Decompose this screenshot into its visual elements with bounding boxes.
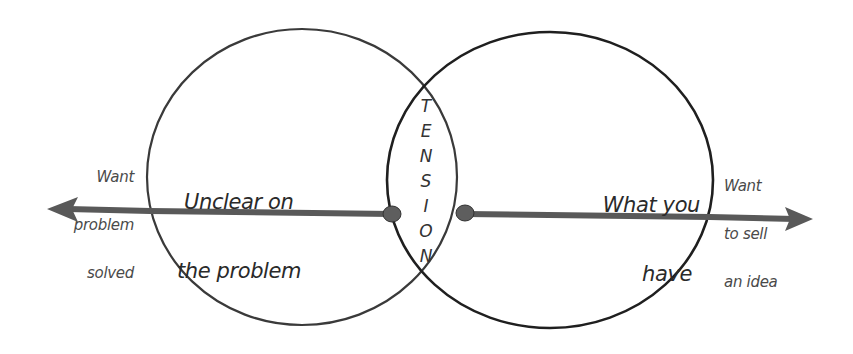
tension-letter: N — [415, 144, 437, 169]
tension-letter: I — [415, 194, 437, 219]
left-circle-label: Unclear on the problem — [180, 145, 301, 306]
right-arrow-label-line3: an idea — [724, 274, 777, 290]
left-arrow-label-line2: problem — [68, 217, 134, 233]
left-arrow-label-line3: solved — [68, 265, 134, 281]
right-arrow-label-line1: Want — [724, 178, 777, 194]
right-anchor-dot — [456, 205, 474, 221]
right-arrow-label-line2: to sell — [724, 226, 777, 242]
tension-letter: S — [415, 169, 437, 194]
overlap-label-tension: T E N S I O N — [415, 94, 437, 269]
left-anchor-dot — [383, 206, 401, 222]
tension-letter: E — [415, 119, 437, 144]
right-circle-label-line1: What you — [580, 194, 700, 217]
right-circle-label: What you have — [580, 148, 700, 309]
left-circle-label-line2: the problem — [177, 260, 301, 283]
left-circle-label-line1: Unclear on — [180, 191, 301, 214]
tension-letter: N — [415, 244, 437, 269]
left-arrow-label: Want problem solved — [68, 137, 134, 297]
right-circle-label-line2: have — [580, 263, 700, 286]
tension-letter: T — [415, 94, 437, 119]
left-arrow-label-line1: Want — [68, 169, 134, 185]
right-arrow-label: Want to sell an idea — [724, 146, 777, 306]
tension-letter: O — [415, 219, 437, 244]
